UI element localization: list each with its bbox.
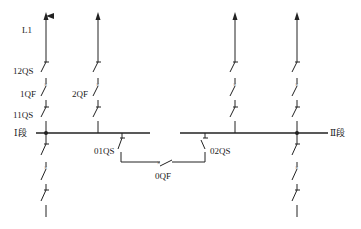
bus-tie: ×: [118, 133, 208, 166]
bus-section-2-label: Ⅱ段: [330, 128, 345, 138]
breaker-label-0qf: 0QF: [155, 171, 171, 181]
svg-text:×: ×: [157, 160, 160, 166]
breaker-label-1qf: 1QF: [20, 89, 36, 99]
outgoing-2: ×: [292, 133, 300, 217]
breaker-label-2qf: 2QF: [72, 89, 88, 99]
switch-label-11qs: 11QS: [13, 110, 33, 120]
feeder-l1: ×: [41, 12, 49, 133]
switch-label-12qs: 12QS: [13, 66, 34, 76]
outgoing-1: ×: [41, 133, 49, 217]
switch-label-01qs: 01QS: [94, 146, 115, 156]
switch-label-02qs: 02QS: [210, 146, 231, 156]
feeder-2qf: ×: [93, 12, 101, 133]
bus-section-1-label: Ⅰ段: [14, 128, 27, 138]
line-label-l1: L1: [22, 25, 32, 35]
feeder-3: ×: [230, 12, 238, 133]
single-line-diagram: × × ×: [0, 0, 361, 229]
feeder-4: ×: [292, 12, 300, 133]
